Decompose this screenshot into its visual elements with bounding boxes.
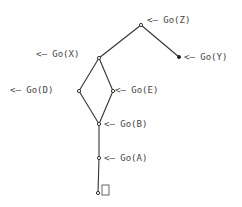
edge-z-y	[141, 25, 179, 57]
nodes	[77, 23, 180, 195]
label-a: <— Go(A)	[104, 153, 147, 163]
labels: <— Go(Z) <— Go(Y) <— Go(X) <— Go(D) <— G…	[10, 15, 227, 163]
node-d	[77, 89, 80, 92]
edge-x-e	[99, 58, 113, 91]
label-y: <— Go(Y)	[184, 52, 227, 62]
edges	[79, 25, 179, 193]
edge-a-root	[98, 158, 99, 193]
root-box-icon	[102, 185, 109, 195]
label-b: <— Go(B)	[104, 119, 147, 129]
tree-diagram: <— Go(Z) <— Go(Y) <— Go(X) <— Go(D) <— G…	[0, 0, 242, 207]
label-d: <— Go(D)	[10, 85, 53, 95]
label-e: <— Go(E)	[115, 85, 158, 95]
label-z: <— Go(Z)	[147, 15, 190, 25]
node-x	[97, 56, 100, 59]
node-y	[177, 55, 180, 58]
node-root	[96, 191, 99, 194]
label-x: <— Go(X)	[36, 49, 79, 59]
node-a	[97, 156, 100, 159]
edge-x-d	[79, 58, 99, 91]
edge-d-b	[79, 91, 99, 124]
node-z	[139, 23, 142, 26]
edge-z-x	[99, 25, 141, 58]
node-b	[97, 122, 100, 125]
